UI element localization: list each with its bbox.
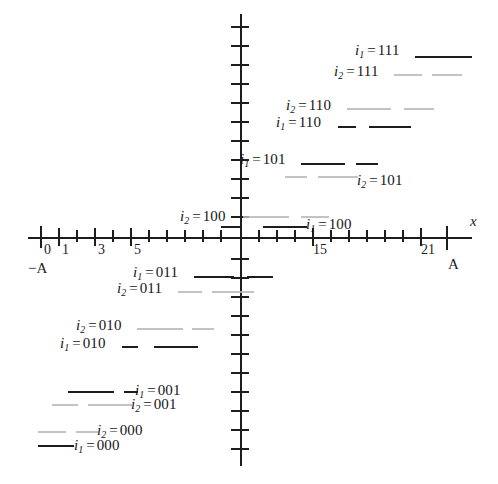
code-label-i2-001: i2=001 [131, 397, 177, 414]
interval-segment-faint [432, 74, 462, 76]
interval-segment [263, 226, 307, 228]
code-label-i2-111: i2=111 [334, 64, 379, 81]
code-label-i1-010: i1=010 [60, 336, 106, 353]
code-bits: 111 [378, 42, 400, 58]
interval-segment [338, 126, 356, 128]
code-equals: = [367, 172, 379, 188]
interval-segment-faint [88, 404, 132, 406]
y-axis-tick [231, 258, 249, 260]
interval-segment-faint [404, 108, 434, 110]
y-axis-tick [231, 429, 249, 431]
code-label-i2-101: i2=101 [357, 173, 403, 190]
code-equals: = [107, 422, 119, 438]
x-axis-tick-minor [202, 230, 204, 242]
code-bits: 100 [329, 216, 352, 232]
y-axis-tick [231, 315, 249, 317]
x-axis-tick-endpoint [446, 226, 448, 250]
interval-segment-faint [347, 108, 391, 110]
interval-segment [247, 276, 273, 278]
right-endpoint-label: A [448, 257, 459, 272]
code-bits: 110 [299, 114, 322, 130]
code-equals: = [316, 216, 328, 232]
code-label-i1-111: i1=111 [355, 43, 400, 60]
code-bits: 000 [120, 422, 143, 438]
code-bits: 111 [357, 63, 379, 79]
y-axis-tick [231, 64, 249, 66]
interval-segment [415, 56, 472, 58]
x-axis-tick-minor [366, 230, 368, 242]
interval-segment-faint [212, 291, 254, 293]
x-axis-tick-minor [258, 230, 260, 242]
interval-segment [122, 346, 138, 348]
x-axis-tick-minor [112, 230, 114, 242]
y-axis-tick [231, 296, 249, 298]
x-axis-tick-minor [184, 230, 186, 242]
left-endpoint-label: −A [28, 261, 47, 276]
x-axis-tick-minor [294, 230, 296, 242]
x-tick-label-0: 0 [44, 243, 51, 257]
interval-segment [68, 391, 114, 393]
code-label-i2-100: i2=100 [180, 209, 226, 226]
x-axis-tick-minor [402, 230, 404, 242]
code-bits: 011 [140, 280, 163, 296]
interval-segment-faint [394, 74, 422, 76]
interval-segment-faint [38, 431, 66, 433]
interval-segment [301, 163, 345, 165]
code-bits: 100 [203, 208, 226, 224]
y-axis-tick [231, 26, 249, 28]
code-bits: 010 [99, 317, 122, 333]
interval-segment-faint [52, 404, 78, 406]
code-bits: 011 [156, 264, 179, 280]
x-tick-label-15: 15 [313, 243, 327, 257]
y-axis-tick [231, 334, 249, 336]
interval-segment [369, 126, 411, 128]
y-axis-tick [231, 102, 249, 104]
binary-interval-diagram: x 0 1 3 5 15 21 −A A i1=111 i2=111 i2=11… [0, 0, 498, 484]
code-label-i2-011: i2=011 [117, 281, 162, 298]
y-axis-tick [231, 83, 249, 85]
x-axis-tick-minor [276, 230, 278, 242]
x-tick-label-1: 1 [62, 243, 69, 257]
interval-segment [154, 346, 198, 348]
interval-segment-faint [76, 431, 98, 433]
code-bits: 001 [154, 396, 177, 412]
y-axis-tick [231, 391, 249, 393]
x-tick-label-21: 21 [421, 243, 435, 257]
x-axis-tick-minor [220, 230, 222, 242]
code-bits: 101 [263, 151, 286, 167]
code-equals: = [70, 335, 82, 351]
code-equals: = [296, 97, 308, 113]
code-label-i1-101: i1=101 [240, 152, 286, 169]
y-axis-tick [231, 372, 249, 374]
x-axis-tick-major [130, 228, 132, 246]
code-label-i1-110: i1=110 [276, 115, 321, 132]
y-axis-tick [231, 45, 249, 47]
y-axis-tick [231, 140, 249, 142]
interval-segment-faint [137, 328, 183, 330]
interval-segment-faint [178, 291, 202, 293]
x-axis-tick-minor [166, 230, 168, 242]
x-axis-tick-major [40, 226, 42, 248]
interval-segment-faint [318, 176, 358, 178]
code-equals: = [86, 317, 98, 333]
x-axis-tick-major [94, 228, 96, 246]
interval-segment [194, 276, 234, 278]
y-axis-tick [231, 178, 249, 180]
y-axis-tick [231, 410, 249, 412]
x-axis-tick-major [58, 228, 60, 246]
x-axis-tick-minor [76, 230, 78, 242]
y-axis-line [240, 14, 242, 466]
interval-segment [221, 226, 241, 228]
y-axis-tick [231, 448, 249, 450]
interval-segment [38, 445, 74, 447]
code-label-i2-010: i2=010 [76, 318, 122, 335]
code-bits: 110 [309, 97, 332, 113]
interval-segment-faint [243, 216, 289, 218]
interval-segment [356, 163, 378, 165]
code-equals: = [365, 42, 377, 58]
interval-segment-faint [192, 328, 214, 330]
code-bits: 000 [97, 437, 120, 453]
code-equals: = [141, 396, 153, 412]
code-equals: = [286, 114, 298, 130]
x-tick-label-5: 5 [134, 243, 141, 257]
